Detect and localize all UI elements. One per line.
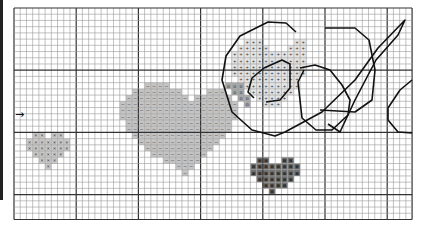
plus-region-symbol: + [240,51,243,57]
plus-region-symbol: + [277,76,280,82]
plus-region-symbol: + [302,45,305,51]
plus-region-symbol: + [302,58,305,64]
plus-region-symbol: + [271,58,274,64]
black-heart-symbol: ■ [258,163,261,169]
small-x-heart-symbol: × [47,139,50,145]
small-x-heart-symbol: × [53,139,56,145]
small-x-heart-symbol: × [40,145,43,151]
plus-region-symbol: + [271,95,274,101]
o-region-symbol: o [246,95,249,101]
black-heart-symbol: ■ [283,170,286,176]
plus-region-symbol: + [240,70,243,76]
small-x-heart-symbol: × [40,157,43,163]
plus-region-symbol: + [233,58,236,64]
grid-lines [14,8,412,219]
small-x-heart-symbol: × [53,151,56,157]
small-x-heart-symbol: × [47,163,50,169]
black-heart-symbol: ■ [277,163,280,169]
plus-region-symbol: + [233,64,236,70]
plus-region-symbol: + [277,101,280,107]
plus-region-symbol: + [246,39,249,45]
plus-region-symbol: + [246,70,249,76]
plus-region-symbol: + [277,83,280,89]
plus-region-symbol: + [240,58,243,64]
small-x-heart-symbol: × [47,157,50,163]
plus-region-symbol: + [233,70,236,76]
small-x-heart-symbol: × [65,139,68,145]
plus-region-symbol: + [283,83,286,89]
small-x-heart-symbol: × [53,157,56,163]
black-heart-symbol: ■ [252,170,255,176]
cross-stitch-chart: ×××××××××××××××××××××××××××–––––––––––––… [0,0,425,232]
black-heart-symbol: ■ [277,182,280,188]
small-x-heart-symbol: × [59,139,62,145]
small-x-heart-symbol: × [34,151,37,157]
plus-region-symbol: + [252,58,255,64]
plus-region-symbol: + [289,51,292,57]
black-heart-symbol: ■ [277,176,280,182]
black-heart-symbol: ■ [271,188,274,194]
plus-region-symbol: + [246,83,249,89]
o-region-symbol: o [227,83,230,89]
black-heart-symbol: ■ [271,163,274,169]
plus-region-symbol: + [283,51,286,57]
plus-region-symbol: + [271,83,274,89]
small-x-heart-symbol: × [59,145,62,151]
black-heart-symbol: ■ [264,157,267,163]
black-heart-symbol: ■ [283,163,286,169]
black-heart-symbol: ■ [258,170,261,176]
plus-region-symbol: + [302,39,305,45]
small-x-heart-symbol: × [40,151,43,157]
plus-region-symbol: + [246,58,249,64]
plus-region-symbol: + [289,58,292,64]
black-heart-symbol: ■ [271,182,274,188]
plus-region-symbol: + [258,51,261,57]
plus-region-symbol: + [283,76,286,82]
plus-region-symbol: + [264,51,267,57]
small-x-heart-symbol: × [65,145,68,151]
black-heart-symbol: ■ [264,163,267,169]
plus-region-symbol: + [246,51,249,57]
plus-region-symbol: + [264,95,267,101]
black-heart-symbol: ■ [264,182,267,188]
small-x-heart-symbol: × [47,151,50,157]
black-heart-symbol: ■ [289,157,292,163]
black-heart-symbol: ■ [252,163,255,169]
plus-region-symbol: + [271,101,274,107]
plus-region-symbol: + [258,64,261,70]
plus-region-symbol: + [271,76,274,82]
black-heart-symbol: ■ [296,170,299,176]
plus-region-symbol: + [289,45,292,51]
small-x-heart-symbol: × [59,132,62,138]
black-heart-symbol: ■ [258,176,261,182]
plus-region-symbol: + [258,58,261,64]
plus-region-symbol: + [258,83,261,89]
plus-region-symbol: + [264,70,267,76]
o-region-symbol: o [240,95,243,101]
plus-region-symbol: + [246,45,249,51]
plus-region-symbol: + [246,76,249,82]
plus-region-symbol: + [252,51,255,57]
black-heart-symbol: ■ [289,176,292,182]
black-heart-symbol: ■ [264,170,267,176]
plus-region-symbol: + [271,70,274,76]
black-heart-symbol: ■ [277,170,280,176]
small-x-heart-symbol: × [28,145,31,151]
small-x-heart-symbol: × [34,132,37,138]
o-region-symbol: o [240,89,243,95]
plus-region-symbol: + [258,95,261,101]
stitch-cells: ×××××××××××××××××××××××××××–––––––––––––… [26,39,306,195]
o-region-symbol: o [240,83,243,89]
black-heart-symbol: ■ [283,182,286,188]
black-heart-symbol: ■ [296,163,299,169]
plus-region-symbol: + [240,64,243,70]
small-x-heart-symbol: × [53,145,56,151]
plus-region-symbol: + [264,45,267,51]
plus-region-symbol: + [271,51,274,57]
plus-region-symbol: + [296,64,299,70]
plus-region-symbol: + [271,89,274,95]
plus-region-symbol: + [296,58,299,64]
plus-region-symbol: + [258,89,261,95]
plus-region-symbol: + [240,45,243,51]
plus-region-symbol: + [264,58,267,64]
